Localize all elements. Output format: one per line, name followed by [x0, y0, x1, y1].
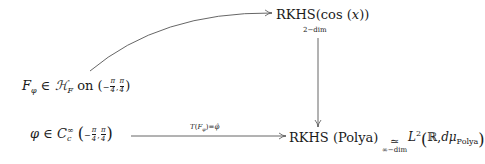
node-f-phi-in-hf: Fφ ∈ ℋF on (−π4,π4): [22, 78, 130, 94]
sym-phi-hat: φ̂: [214, 123, 219, 131]
sym-F-sub: F: [68, 86, 74, 95]
sym-T: T: [190, 123, 195, 131]
rkhs-cos-suffix: )): [359, 7, 369, 22]
sub-c: c: [67, 135, 74, 142]
frac-pi-4: π4: [92, 127, 97, 143]
minus: −: [103, 83, 110, 92]
label-inf-dim: ∞−dim: [382, 147, 407, 154]
node-rkhs-polya: RKHS (Polya): [289, 131, 378, 144]
sym-reals: ℝ: [427, 130, 437, 144]
rkhs-cos-prefix: RKHS(cos (: [276, 7, 352, 22]
sym-script-H: ℋ: [55, 78, 68, 93]
sym-phi: φ: [30, 126, 39, 141]
frac-pi-4: π4: [120, 78, 125, 94]
sym-dmu: dμ: [441, 130, 456, 144]
frac-pi-4: π4: [101, 127, 106, 143]
sym-C: C: [57, 126, 67, 141]
sym-F: F: [22, 78, 31, 93]
frac-pi-4: π4: [110, 78, 115, 94]
node-l2-polya: L2(ℝ,dμPolya): [408, 131, 485, 148]
sym-in: ∈: [41, 78, 51, 93]
arrow-label-transform: T(Fφ)=φ̂: [190, 124, 219, 131]
sym-L: L: [408, 130, 416, 144]
curved-arrow: [90, 13, 272, 71]
word-on: on: [77, 78, 93, 93]
node-phi-in-cc-inf: φ ∈ C∞c (−π4,π4): [30, 126, 113, 143]
sym-in: ∈: [43, 126, 53, 141]
sym-phi-sub: φ: [31, 86, 37, 95]
isomorphism-symbol: ≃∞−dim: [382, 128, 407, 154]
sub-phi: φ: [202, 126, 206, 132]
sub-polya: Polya: [457, 137, 479, 146]
label-2-dim: 2−dim: [303, 27, 327, 34]
node-rkhs-cos: RKHS(cos (x)): [276, 8, 369, 21]
minus: −: [84, 131, 91, 140]
